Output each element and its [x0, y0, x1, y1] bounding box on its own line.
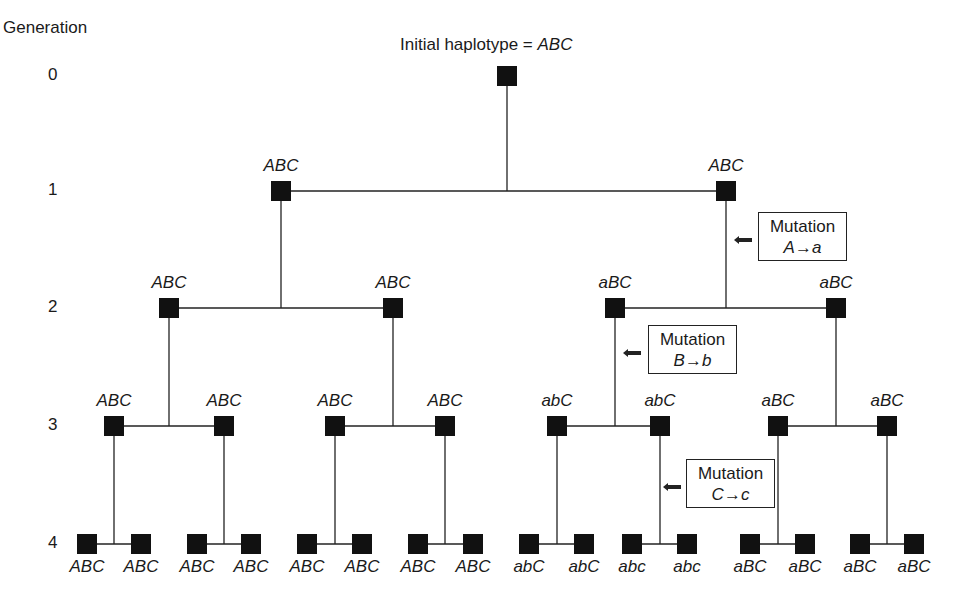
haplotype-label: aBC — [761, 391, 794, 411]
generation-axis-title: Generation — [3, 18, 87, 38]
mutation-title: Mutation — [687, 463, 774, 484]
haplotype-node — [605, 298, 625, 318]
haplotype-node — [463, 534, 483, 554]
haplotype-node — [241, 534, 261, 554]
haplotype-label: aBC — [788, 557, 821, 577]
mutation-change: B→b — [649, 350, 736, 371]
haplotype-label: aBC — [897, 557, 930, 577]
haplotype-label: ABC — [345, 557, 380, 577]
haplotype-node — [740, 534, 760, 554]
initial-haplotype-value: ABC — [538, 35, 573, 54]
generation-label-2: 2 — [48, 297, 57, 317]
haplotype-node — [77, 534, 97, 554]
haplotype-label: aBC — [733, 557, 766, 577]
haplotype-label: ABC — [124, 557, 159, 577]
haplotype-node — [826, 298, 846, 318]
haplotype-node — [519, 534, 539, 554]
haplotype-label: aBC — [819, 273, 852, 293]
haplotype-label: ABC — [70, 557, 105, 577]
haplotype-node — [383, 298, 403, 318]
haplotype-label: aBC — [843, 557, 876, 577]
mutation-title: Mutation — [649, 329, 736, 350]
initial-haplotype-title: Initial haplotype = ABC — [400, 35, 572, 55]
arrow-left-icon — [627, 351, 641, 355]
haplotype-label: ABC — [264, 156, 299, 176]
mutation-box: MutationA→a — [758, 212, 847, 261]
mutation-change: C→c — [687, 484, 774, 505]
mutation-title: Mutation — [759, 216, 846, 237]
arrow-left-icon — [667, 485, 681, 489]
haplotype-node — [497, 66, 517, 86]
haplotype-node — [159, 298, 179, 318]
haplotype-node — [131, 534, 151, 554]
initial-haplotype-prefix: Initial haplotype = — [400, 35, 538, 54]
haplotype-node — [325, 416, 345, 436]
haplotype-node — [850, 534, 870, 554]
haplotype-label: ABC — [207, 391, 242, 411]
mutation-box: MutationB→b — [648, 325, 737, 374]
haplotype-node — [650, 416, 670, 436]
haplotype-label: ABC — [456, 557, 491, 577]
haplotype-node — [622, 534, 642, 554]
haplotype-label: abc — [618, 557, 645, 577]
haplotype-label: ABC — [180, 557, 215, 577]
haplotype-label: abc — [673, 557, 700, 577]
haplotype-node — [104, 416, 124, 436]
generation-label-1: 1 — [48, 180, 57, 200]
haplotype-label: ABC — [318, 391, 353, 411]
haplotype-node — [214, 416, 234, 436]
mutation-box: MutationC→c — [686, 459, 775, 508]
haplotype-node — [677, 534, 697, 554]
haplotype-label: aBC — [598, 273, 631, 293]
haplotype-label: aBC — [870, 391, 903, 411]
haplotype-label: ABC — [401, 557, 436, 577]
haplotype-node — [408, 534, 428, 554]
haplotype-label: ABC — [97, 391, 132, 411]
haplotype-label: ABC — [376, 273, 411, 293]
haplotype-label: abC — [541, 391, 572, 411]
haplotype-node — [574, 534, 594, 554]
haplotype-node — [877, 416, 897, 436]
arrow-left-icon — [738, 238, 752, 242]
haplotype-node — [297, 534, 317, 554]
haplotype-label: abC — [568, 557, 599, 577]
haplotype-label: abC — [644, 391, 675, 411]
haplotype-node — [187, 534, 207, 554]
haplotype-node — [435, 416, 455, 436]
haplotype-node — [716, 181, 736, 201]
genealogy-tree — [0, 0, 955, 605]
haplotype-node — [271, 181, 291, 201]
haplotype-label: ABC — [152, 273, 187, 293]
mutation-change: A→a — [759, 237, 846, 258]
haplotype-node — [904, 534, 924, 554]
haplotype-label: ABC — [290, 557, 325, 577]
generation-label-4: 4 — [48, 533, 57, 553]
haplotype-label: abC — [513, 557, 544, 577]
haplotype-label: ABC — [428, 391, 463, 411]
haplotype-node — [352, 534, 372, 554]
haplotype-genealogy-diagram: Generation 0 1 2 3 4 Initial haplotype =… — [0, 0, 955, 605]
haplotype-label: ABC — [234, 557, 269, 577]
haplotype-node — [768, 416, 788, 436]
haplotype-node — [795, 534, 815, 554]
haplotype-node — [547, 416, 567, 436]
haplotype-label: ABC — [709, 156, 744, 176]
generation-label-0: 0 — [48, 65, 57, 85]
generation-label-3: 3 — [48, 415, 57, 435]
